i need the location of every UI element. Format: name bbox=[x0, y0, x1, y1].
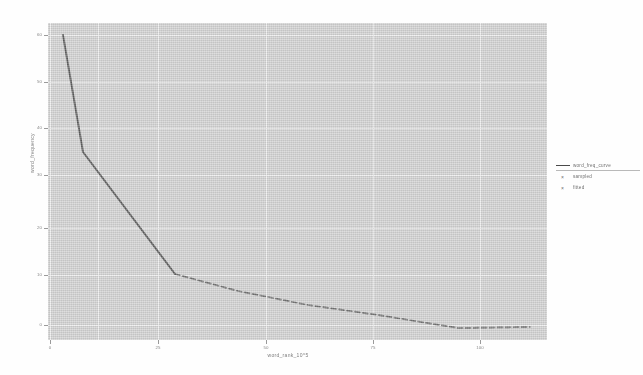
x-tickmark bbox=[158, 340, 159, 344]
y-tickmark bbox=[44, 82, 48, 83]
chart-figure: 60 50 40 30 20 10 0 word_frequency 0 25 … bbox=[0, 0, 643, 375]
x-tickmark bbox=[266, 340, 267, 344]
y-tickmark bbox=[44, 228, 48, 229]
x-tick-label: 0 bbox=[35, 346, 65, 350]
y-tick-label: 0 bbox=[20, 323, 42, 327]
y-tick-label: 50 bbox=[20, 80, 42, 84]
x-tickmark bbox=[480, 340, 481, 344]
y-tick-label: 60 bbox=[20, 33, 42, 37]
legend-line-swatch bbox=[556, 163, 570, 169]
plot-area bbox=[48, 23, 547, 340]
legend-x-marker-icon: × bbox=[556, 174, 570, 180]
x-tickmark bbox=[50, 340, 51, 344]
legend-item[interactable]: × sampled bbox=[556, 171, 640, 182]
legend-item-label: sampled bbox=[573, 174, 592, 179]
y-tick-label: 20 bbox=[20, 226, 42, 230]
y-tickmark bbox=[44, 275, 48, 276]
x-tick-label: 25 bbox=[143, 346, 173, 350]
legend-divider bbox=[556, 170, 640, 171]
legend-item[interactable]: × fitted bbox=[556, 182, 640, 193]
y-tickmark bbox=[44, 128, 48, 129]
data-series-line bbox=[48, 23, 547, 340]
x-tickmark bbox=[373, 340, 374, 344]
y-tick-label: 10 bbox=[20, 273, 42, 277]
y-axis-label: word_frequency bbox=[29, 113, 35, 193]
chart-legend: word_freq_curve × sampled × fitted bbox=[556, 160, 640, 193]
y-tickmark bbox=[44, 175, 48, 176]
x-tick-label: 50 bbox=[251, 346, 281, 350]
x-tick-label: 100 bbox=[465, 346, 495, 350]
y-tickmark bbox=[44, 325, 48, 326]
legend-x-marker-icon: × bbox=[556, 185, 570, 191]
legend-item-label: fitted bbox=[573, 185, 584, 190]
legend-item-label: word_freq_curve bbox=[573, 163, 611, 168]
x-tick-label: 75 bbox=[358, 346, 388, 350]
y-tickmark bbox=[44, 35, 48, 36]
x-axis-label: word_rank_10^5 bbox=[228, 352, 348, 358]
